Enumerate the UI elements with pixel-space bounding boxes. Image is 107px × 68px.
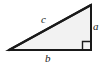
vertical-leg-label: a bbox=[93, 21, 99, 32]
right-triangle-diagram: c a b bbox=[0, 0, 107, 68]
hypotenuse-label: c bbox=[41, 14, 46, 25]
horizontal-leg-label: b bbox=[45, 53, 51, 64]
triangle-graphic bbox=[0, 0, 107, 68]
